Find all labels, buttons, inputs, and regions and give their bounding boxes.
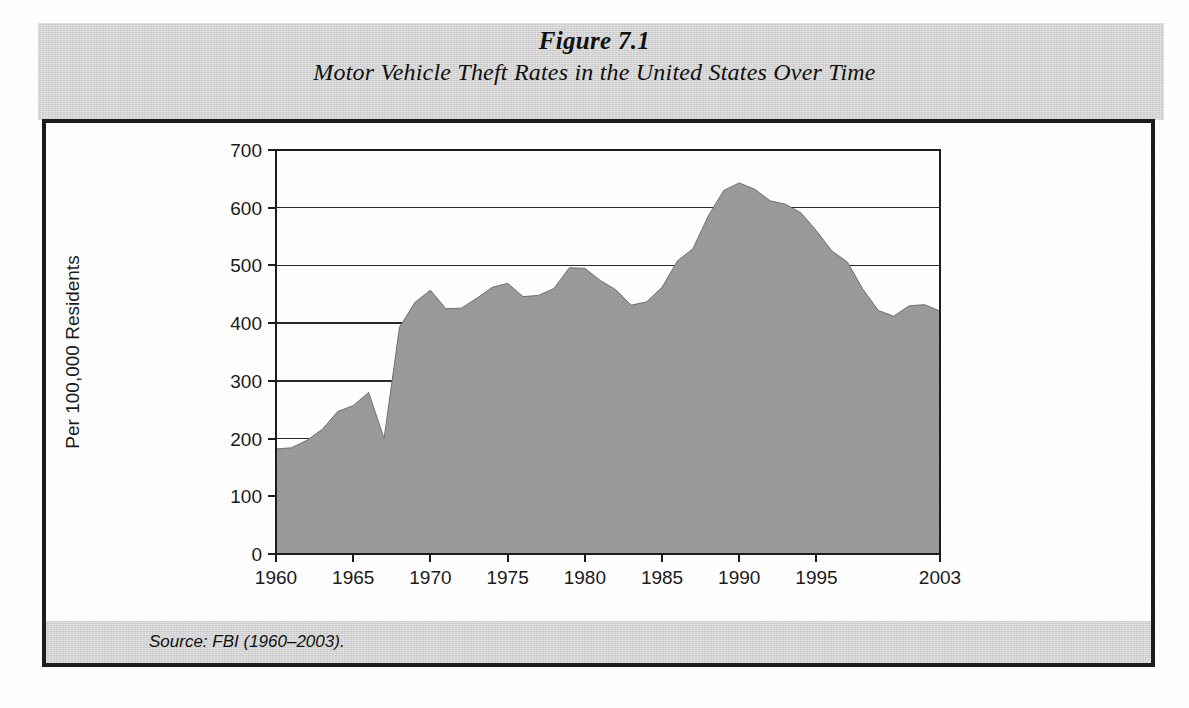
figure-title-text: Motor Vehicle Theft Rates in the United … xyxy=(0,59,1189,86)
source-note: Source: FBI (1960–2003). xyxy=(149,632,345,652)
y-axis: 0100200300400500600700 xyxy=(230,140,276,565)
area-chart: 0100200300400500600700 19601965197019751… xyxy=(46,123,1151,618)
y-axis-title: Per 100,000 Residents xyxy=(62,255,83,448)
y-tick-label-500: 500 xyxy=(230,255,262,276)
x-tick-label-1995: 1995 xyxy=(795,567,837,588)
y-tick-label-300: 300 xyxy=(230,371,262,392)
source-band: Source: FBI (1960–2003). xyxy=(46,621,1151,663)
y-tick-label-200: 200 xyxy=(230,429,262,450)
figure-frame: 0100200300400500600700 19601965197019751… xyxy=(42,119,1155,667)
y-tick-label-700: 700 xyxy=(230,140,262,161)
y-tick-label-0: 0 xyxy=(251,544,262,565)
figure-number-label: Figure 7.1 xyxy=(0,27,1189,55)
x-axis: 196019651970197519801985199019952003 xyxy=(255,554,961,588)
x-tick-label-1965: 1965 xyxy=(332,567,374,588)
y-tick-label-600: 600 xyxy=(230,198,262,219)
x-tick-label-1970: 1970 xyxy=(409,567,451,588)
y-tick-label-100: 100 xyxy=(230,486,262,507)
x-tick-label-1990: 1990 xyxy=(718,567,760,588)
x-tick-label-1985: 1985 xyxy=(641,567,683,588)
figure-container: Figure 7.1 Motor Vehicle Theft Rates in … xyxy=(0,0,1189,708)
x-tick-label-1975: 1975 xyxy=(486,567,528,588)
x-tick-label-1960: 1960 xyxy=(255,567,297,588)
x-tick-label-1980: 1980 xyxy=(564,567,606,588)
chart-area: 0100200300400500600700 19601965197019751… xyxy=(46,123,1151,618)
x-tick-label-2003: 2003 xyxy=(919,567,961,588)
y-tick-label-400: 400 xyxy=(230,313,262,334)
